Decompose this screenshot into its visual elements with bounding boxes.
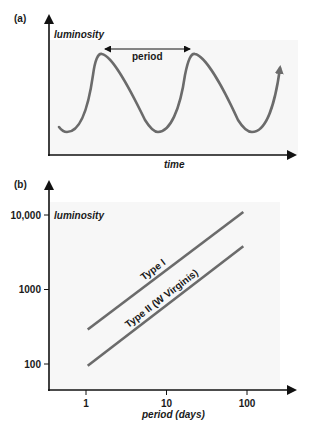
panel-a-background: [50, 40, 298, 155]
figure: (a) luminosity time period (b) luminosit…: [0, 0, 312, 431]
panel-a-y-label: luminosity: [54, 29, 104, 40]
panel-b-label: (b): [14, 179, 27, 190]
panel-b-x-ticks: 110100: [83, 390, 256, 409]
y-tick-label: 100: [24, 359, 41, 370]
panel-b-x-label: period (days): [141, 409, 205, 420]
y-tick-label: 10,000: [10, 210, 41, 221]
panel-a: (a) luminosity time period: [14, 13, 298, 170]
panel-b-y-ticks: 100100010,000: [10, 210, 49, 370]
x-tick-label: 100: [239, 398, 256, 409]
y-tick-label: 1000: [19, 284, 42, 295]
x-tick-label: 10: [161, 398, 173, 409]
panel-a-x-label: time: [164, 159, 185, 170]
x-tick-label: 1: [83, 398, 89, 409]
panel-b: (b) luminosity period (days) 100100010,0…: [10, 179, 295, 420]
period-annotation: period: [132, 51, 163, 62]
panel-a-label: (a): [14, 13, 26, 24]
panel-b-y-label: luminosity: [54, 210, 104, 221]
